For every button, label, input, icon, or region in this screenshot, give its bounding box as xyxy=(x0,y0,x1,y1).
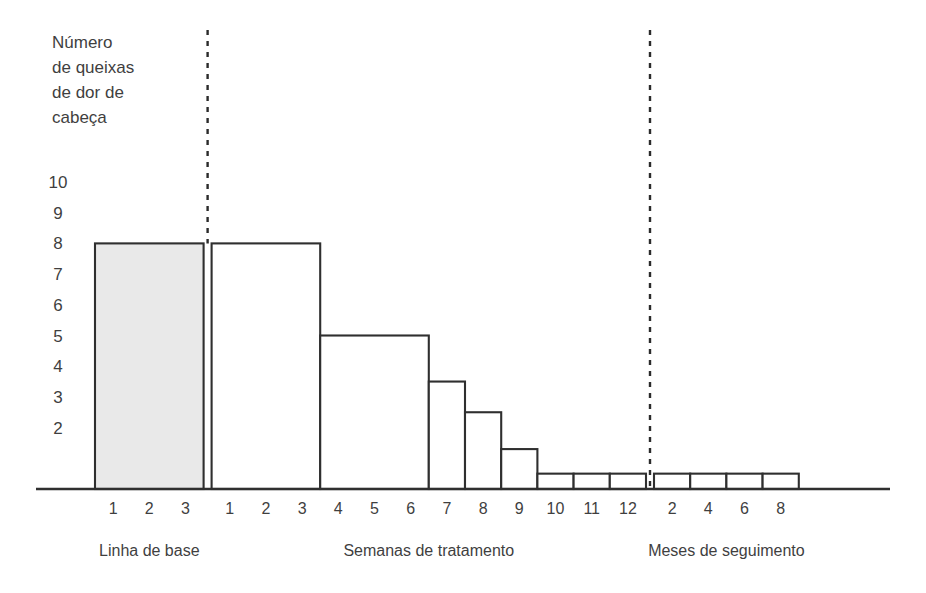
headache-complaints-chart: Númerode queixasde dor decabeça 10987654… xyxy=(0,0,926,593)
x-tick-label-treatment-2: 2 xyxy=(261,500,270,517)
y-axis-title-line: de queixas xyxy=(52,58,134,77)
x-tick-label-treatment-4: 4 xyxy=(334,500,343,517)
x-tick-label-followup-6: 6 xyxy=(740,500,749,517)
chart-canvas: Númerode queixasde dor decabeça 10987654… xyxy=(0,0,926,593)
bar-treatment-10 xyxy=(537,474,573,489)
y-tick-label: 10 xyxy=(49,173,68,192)
x-tick-label-treatment-5: 5 xyxy=(370,500,379,517)
section-label-baseline: Linha de base xyxy=(99,542,200,559)
x-tick-label-treatment-12: 12 xyxy=(619,500,637,517)
bar-followup-2 xyxy=(654,474,690,489)
x-axis-tick-labels: 1231234567891011122468 xyxy=(109,500,786,517)
x-tick-label-followup-4: 4 xyxy=(704,500,713,517)
section-labels: Linha de baseSemanas de tratamentoMeses … xyxy=(99,542,805,559)
y-axis-tick-labels: 1098765432 xyxy=(49,173,68,438)
x-tick-label-treatment-9: 9 xyxy=(515,500,524,517)
y-tick-label: 9 xyxy=(53,204,62,223)
y-tick-label: 4 xyxy=(53,357,62,376)
y-tick-label: 7 xyxy=(53,265,62,284)
x-tick-label-treatment-6: 6 xyxy=(406,500,415,517)
section-label-followup: Meses de seguimento xyxy=(648,542,805,559)
bar-treatment-1-3 xyxy=(212,243,321,489)
section-label-treatment: Semanas de tratamento xyxy=(343,542,514,559)
x-tick-label-treatment-10: 10 xyxy=(547,500,565,517)
bar-followup-4 xyxy=(690,474,726,489)
bar-treatment-7 xyxy=(429,382,465,489)
y-tick-label: 6 xyxy=(53,296,62,315)
bar-followup-6 xyxy=(726,474,762,489)
x-tick-label-followup-8: 8 xyxy=(776,500,785,517)
y-axis-title-line: de dor de xyxy=(52,83,124,102)
x-tick-label-treatment-7: 7 xyxy=(442,500,451,517)
bar-followup-8 xyxy=(763,474,799,489)
bar-treatment-12 xyxy=(610,474,646,489)
x-tick-label-baseline-1: 1 xyxy=(109,500,118,517)
y-tick-label: 8 xyxy=(53,234,62,253)
x-tick-label-treatment-8: 8 xyxy=(479,500,488,517)
y-tick-label: 5 xyxy=(53,327,62,346)
bar-treatment-4-6 xyxy=(320,336,429,490)
y-axis-title: Númerode queixasde dor decabeça xyxy=(52,33,134,127)
x-tick-label-treatment-1: 1 xyxy=(225,500,234,517)
bar-baseline-1-3 xyxy=(95,243,204,489)
bars-group xyxy=(95,243,799,489)
y-axis-title-line: cabeça xyxy=(52,108,107,127)
x-tick-label-treatment-3: 3 xyxy=(298,500,307,517)
x-tick-label-baseline-3: 3 xyxy=(181,500,190,517)
y-tick-label: 2 xyxy=(53,419,62,438)
bar-treatment-8 xyxy=(465,412,501,489)
y-tick-label: 3 xyxy=(53,388,62,407)
x-tick-label-followup-2: 2 xyxy=(668,500,677,517)
x-tick-label-treatment-11: 11 xyxy=(583,500,600,517)
bar-treatment-9 xyxy=(501,449,537,489)
bar-treatment-11 xyxy=(574,474,610,489)
x-tick-label-baseline-2: 2 xyxy=(145,500,154,517)
y-axis-title-line: Número xyxy=(52,33,112,52)
